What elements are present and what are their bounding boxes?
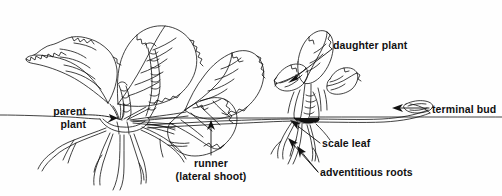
label-parent-plant-line1: parent xyxy=(8,105,86,118)
label-parent-plant-line2: plant xyxy=(8,118,86,131)
parent-leaf-left xyxy=(26,37,121,103)
diagram-canvas: parent plant runner (lateral shoot) daug… xyxy=(0,0,502,196)
parent-leaf-right-lower xyxy=(168,98,237,156)
label-parent-plant: parent plant xyxy=(8,105,86,130)
label-adventitious-roots: adventitious roots xyxy=(320,166,413,179)
label-scale-leaf: scale leaf xyxy=(322,137,370,150)
label-daughter-plant: daughter plant xyxy=(333,39,407,52)
parent-emerging-shoot xyxy=(118,43,160,119)
label-runner: runner (lateral shoot) xyxy=(148,157,274,182)
label-terminal-bud: terminal bud xyxy=(432,103,496,116)
label-runner-line1: runner xyxy=(148,157,274,170)
label-runner-line2: (lateral shoot) xyxy=(148,170,274,183)
terminal-bud-shape xyxy=(404,101,433,113)
